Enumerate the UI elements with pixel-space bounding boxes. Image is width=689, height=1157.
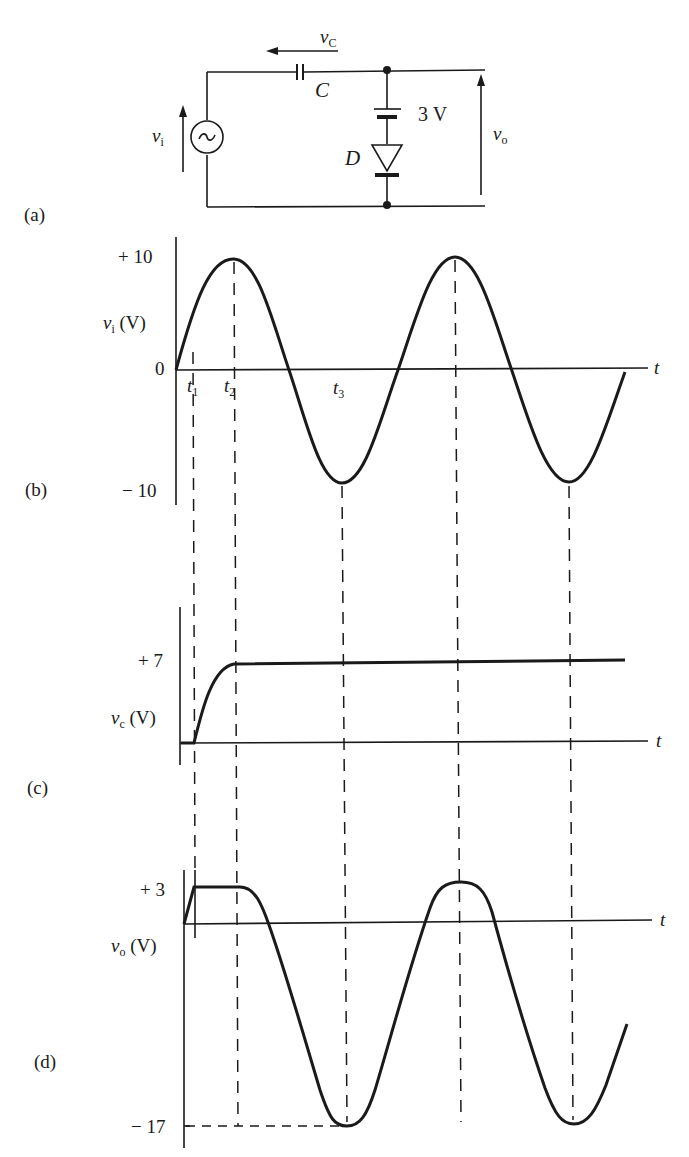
vi-ymax-label: + 10	[118, 247, 152, 266]
capacitor-label: C	[315, 80, 329, 101]
vo-circuit-label: vo	[493, 124, 507, 143]
vi-x-axis	[176, 368, 648, 370]
vi-ymin-label: − 10	[122, 481, 156, 500]
vc-curve	[181, 660, 625, 743]
vo-curve	[184, 882, 627, 1126]
vc-x-axis	[180, 741, 648, 743]
node-bottom	[383, 201, 391, 209]
vo-yaxis-label: vo (V)	[111, 936, 157, 955]
circuit-diagram	[179, 47, 485, 207]
vc-t-label: t	[656, 731, 661, 750]
vo-t-label: t	[660, 910, 665, 929]
chart-vc	[180, 607, 648, 765]
vc-circuit-label: vC	[320, 27, 336, 46]
panel-label-d: (d)	[34, 1052, 56, 1071]
panel-label-b: (b)	[25, 480, 47, 499]
vi-yaxis-label: vi (V)	[103, 313, 146, 332]
node-top	[383, 66, 391, 74]
t2-label: t2	[224, 376, 235, 395]
diode-label: D	[345, 148, 360, 169]
vc-yaxis-label: vc (V)	[111, 708, 156, 727]
vo-ymax-label: + 3	[140, 880, 165, 899]
t3-label: t3	[333, 378, 344, 397]
vi-t-label: t	[654, 358, 659, 377]
vc-ymax-label: + 7	[138, 651, 163, 670]
vo-ymin-label: − 17	[131, 1117, 165, 1136]
vi-zero-label: 0	[155, 359, 165, 378]
vo-x-axis	[184, 920, 652, 924]
t1-label: t1	[187, 376, 198, 395]
panel-label-c: (c)	[27, 778, 48, 797]
figure-canvas	[0, 0, 689, 1157]
battery-label: 3 V	[418, 104, 447, 124]
panel-label-a: (a)	[24, 205, 45, 224]
chart-vi	[176, 237, 648, 505]
diode-icon	[372, 145, 402, 171]
vi-circuit-label: vi	[152, 126, 164, 145]
chart-vo	[184, 870, 652, 1148]
